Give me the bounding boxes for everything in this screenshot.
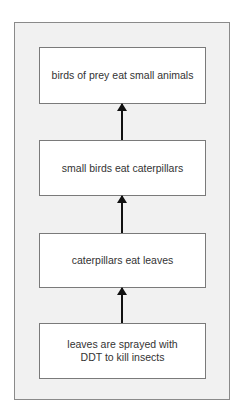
box-label: caterpillars eat leaves bbox=[72, 254, 174, 267]
box-leaves-ddt: leaves are sprayed with DDT to kill inse… bbox=[39, 323, 206, 379]
arrow-up-icon bbox=[121, 196, 123, 233]
arrow-up-icon bbox=[121, 104, 123, 140]
box-small-birds: small birds eat caterpillars bbox=[39, 140, 206, 196]
box-label: small birds eat caterpillars bbox=[62, 162, 183, 175]
box-label: birds of prey eat small animals bbox=[52, 69, 194, 82]
box-label: leaves are sprayed with DDT to kill inse… bbox=[58, 338, 187, 364]
box-caterpillars: caterpillars eat leaves bbox=[39, 233, 206, 288]
box-birds-of-prey: birds of prey eat small animals bbox=[39, 47, 206, 104]
arrow-up-icon bbox=[121, 288, 123, 323]
